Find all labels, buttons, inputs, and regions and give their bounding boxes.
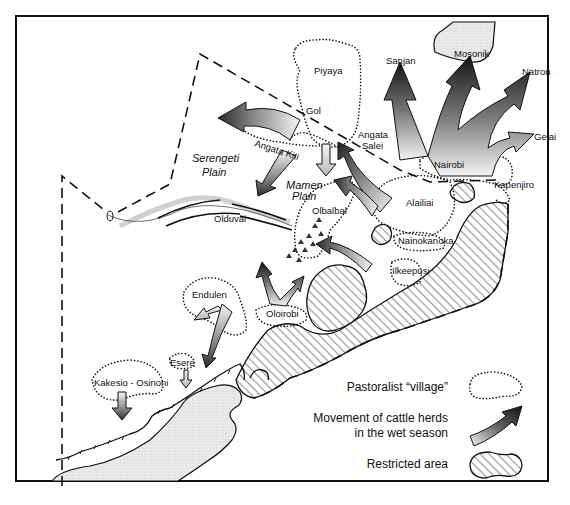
label-esere: Esere bbox=[170, 357, 195, 368]
label-natron: Natron bbox=[522, 66, 551, 77]
label-olbalbal: Olbalbal bbox=[312, 205, 347, 216]
label-gelai: Gelai bbox=[534, 131, 556, 142]
label-mamen-plain-2: Plain bbox=[292, 190, 316, 202]
label-kakesio-osinoni: Kakesio - Osinoni bbox=[94, 377, 168, 388]
label-endulen: Endulen bbox=[192, 289, 227, 300]
label-nairobi: Nairobi bbox=[434, 159, 464, 170]
label-oloirobi: Oloirobi bbox=[266, 308, 299, 319]
label-mosonik: Mosonik bbox=[454, 48, 490, 59]
label-serengeti-plain-2: Plain bbox=[202, 166, 226, 178]
label-kapenjiro: Kapenjiro bbox=[494, 179, 534, 190]
label-gol: Gol bbox=[306, 105, 321, 116]
label-piyaya: Piyaya bbox=[314, 65, 343, 76]
map-figure: Serengeti Plain Mamen Plain Olduvai Piya… bbox=[0, 0, 570, 505]
label-angata-salei-2: Salei bbox=[362, 140, 383, 151]
legend-movement-label-1: Movement of cattle herds bbox=[313, 411, 448, 425]
label-olduvai: Olduvai bbox=[214, 213, 246, 224]
legend-restricted-label: Restricted area bbox=[367, 457, 449, 471]
label-serengeti-plain-1: Serengeti bbox=[192, 152, 240, 164]
legend-restricted-symbol bbox=[470, 452, 522, 478]
label-alailiai: Alailiai bbox=[406, 197, 433, 208]
label-sanjan: Sanjan bbox=[386, 55, 416, 66]
legend-village-label: Pastoralist “village” bbox=[347, 380, 448, 394]
label-angata-salei-1: Angata bbox=[358, 129, 389, 140]
label-nainokanoka: Nainokanoka bbox=[398, 235, 454, 246]
legend-movement-label-2: in the wet season bbox=[355, 426, 448, 440]
label-ilkeepusi: Ilkeepusi bbox=[392, 265, 430, 276]
